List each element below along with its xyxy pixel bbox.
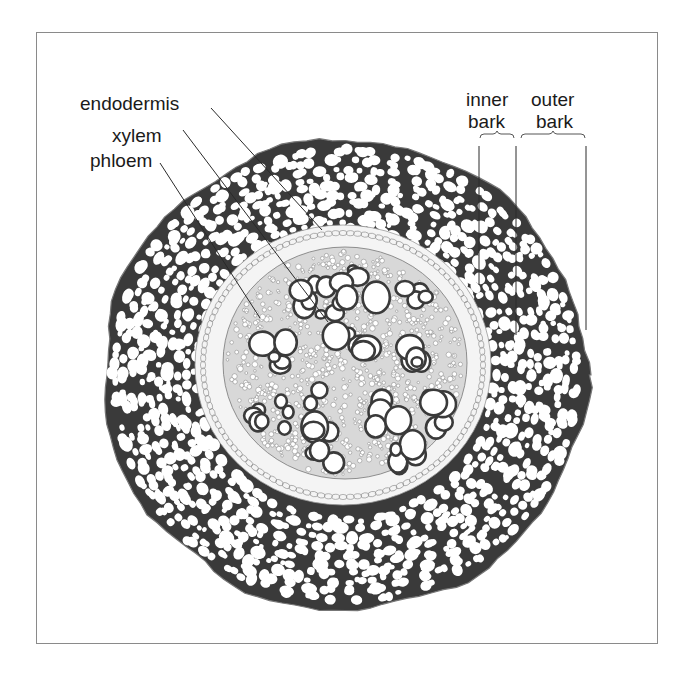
phloem-cell (243, 319, 247, 323)
phloem-cell (355, 369, 359, 373)
phloem-cell (408, 385, 413, 390)
phloem-cell (255, 377, 258, 380)
phloem-cell (386, 435, 390, 439)
phloem-cell (312, 257, 315, 260)
phloem-cell (247, 385, 252, 390)
phloem-cell (459, 374, 463, 378)
phloem-cell (273, 430, 276, 433)
phloem-cell (437, 384, 442, 389)
phloem-cell (431, 352, 434, 355)
phloem-cell (381, 448, 383, 450)
phloem-cell (342, 420, 345, 423)
phloem-cell (355, 410, 359, 414)
phloem-cell (443, 321, 448, 326)
phloem-cell (361, 324, 366, 329)
phloem-cell (369, 381, 374, 386)
phloem-cell (344, 438, 349, 443)
phloem-cell (366, 323, 369, 326)
phloem-cell (414, 425, 418, 429)
phloem-cell (396, 384, 399, 387)
xylem-vessel (255, 414, 268, 429)
phloem-cell (244, 302, 249, 307)
phloem-cell (416, 405, 419, 408)
phloem-cell (242, 361, 246, 365)
phloem-cell (267, 391, 270, 394)
phloem-cell (324, 299, 328, 303)
phloem-cell (248, 326, 251, 329)
phloem-cell (245, 335, 249, 339)
phloem-cell (430, 315, 434, 319)
phloem-cell (308, 332, 311, 335)
phloem-cell (263, 389, 266, 392)
phloem-cell (376, 455, 380, 459)
phloem-cell (342, 473, 344, 475)
phloem-cell (443, 380, 447, 384)
phloem-cell (432, 334, 436, 338)
phloem-cell (376, 263, 380, 267)
phloem-cell (348, 451, 351, 454)
phloem-label: phloem (90, 150, 152, 171)
xylem-vessel (274, 330, 296, 356)
phloem-cell (328, 416, 331, 419)
phloem-cell (423, 386, 426, 389)
phloem-cell (283, 310, 286, 313)
phloem-cell (250, 374, 255, 379)
phloem-cell (289, 313, 293, 317)
phloem-cell (361, 259, 366, 264)
phloem-cell (393, 436, 398, 441)
outer-bark-label-line1: outer (531, 89, 575, 110)
phloem-cell (419, 321, 422, 324)
phloem-cell (293, 421, 297, 425)
phloem-cell (303, 319, 307, 323)
xylem-vessel (365, 415, 386, 437)
phloem-cell (261, 432, 266, 437)
phloem-cell (281, 318, 283, 320)
phloem-cell (268, 387, 272, 391)
phloem-cell (334, 397, 337, 400)
phloem-cell (349, 444, 352, 447)
phloem-cell (342, 424, 345, 427)
phloem-cell (327, 262, 331, 266)
phloem-cell (260, 314, 266, 320)
phloem-cell (427, 375, 431, 379)
phloem-cell (365, 369, 368, 372)
phloem-cell (375, 443, 378, 446)
phloem-cell (434, 355, 438, 359)
phloem-cell (388, 322, 391, 325)
phloem-cell (230, 341, 234, 345)
root-cross-section-diagram: endodermis xylem phloem inner bark outer… (0, 0, 693, 677)
xylem-vessel (396, 281, 415, 296)
phloem-cell (262, 308, 266, 312)
phloem-cell (338, 409, 343, 414)
phloem-cell (386, 275, 389, 278)
xylem-vessel (336, 286, 357, 310)
phloem-cell (272, 279, 276, 283)
phloem-cell (373, 321, 378, 326)
phloem-cell (269, 432, 274, 437)
phloem-cell (429, 369, 433, 373)
phloem-cell (349, 393, 352, 396)
phloem-cell (243, 322, 248, 327)
phloem-cell (391, 296, 396, 301)
phloem-cell (453, 328, 457, 332)
phloem-cell (252, 362, 258, 368)
phloem-cell (375, 275, 380, 280)
phloem-cell (277, 289, 280, 292)
phloem-cell (401, 374, 405, 378)
phloem-cell (342, 249, 346, 253)
phloem-cell (255, 396, 258, 399)
phloem-cell (382, 372, 385, 375)
phloem-cell (315, 345, 320, 350)
phloem-cell (352, 367, 356, 371)
phloem-cell (395, 360, 400, 365)
phloem-cell (377, 382, 381, 386)
phloem-cell (277, 281, 280, 284)
phloem-cell (246, 363, 250, 367)
phloem-cell (365, 400, 368, 403)
phloem-cell (415, 328, 419, 332)
phloem-cell (292, 390, 296, 394)
phloem-cell (387, 351, 391, 355)
xylem-vessel (352, 341, 375, 360)
phloem-cell (398, 320, 402, 324)
phloem-cell (390, 344, 393, 347)
